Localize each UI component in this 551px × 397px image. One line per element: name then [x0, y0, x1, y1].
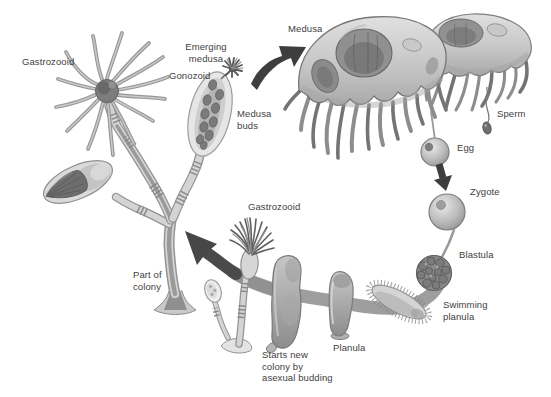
label-zygote: Zygote — [470, 186, 500, 198]
label-egg: Egg — [457, 142, 474, 154]
sperm-figure — [482, 87, 493, 135]
label-blastula: Blastula — [459, 249, 494, 261]
egg-figure — [421, 138, 449, 166]
label-swimming-planula: Swimming planula — [443, 299, 488, 322]
gastrozooid-polyp-figure — [56, 33, 168, 155]
closed-bud-figure — [37, 152, 118, 212]
label-part-of-colony: Part of colony — [133, 269, 162, 292]
tentacle-tuft — [230, 218, 274, 255]
planula-figure — [329, 272, 353, 340]
side-bud-figure — [202, 278, 228, 338]
arrow-to-medusa — [251, 46, 306, 90]
label-gonozoid: Gonozoid — [169, 70, 210, 82]
arrow-egg-zygote — [434, 164, 452, 191]
label-emerging-medusa: Emerging medusa — [180, 41, 232, 64]
life-cycle-diagram: Gastrozooid Emerging medusa Gonozoid Med… — [0, 0, 551, 397]
label-planula: Planula — [333, 342, 365, 354]
label-medusa: Medusa — [288, 23, 322, 35]
connector-zygote-blastula — [442, 230, 454, 257]
life-cycle-illustration — [0, 0, 551, 397]
budding-colony-figure — [266, 256, 301, 353]
label-starts-new-colony: Starts new colony by asexual budding — [262, 349, 333, 384]
blastula-figure — [417, 256, 452, 291]
label-sperm: Sperm — [497, 108, 525, 120]
label-gastrozooid-bottom: Gastrozooid — [248, 201, 300, 213]
medusa-large-figure — [285, 17, 446, 158]
label-gastrozooid-top: Gastrozooid — [22, 56, 74, 68]
zygote-figure — [429, 194, 465, 230]
label-medusa-buds: Medusa buds — [237, 108, 271, 131]
